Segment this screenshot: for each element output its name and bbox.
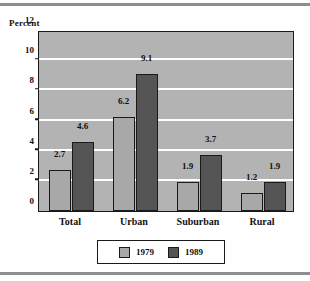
bar-value-label-rural-1979: 1.2 <box>246 173 257 182</box>
gridline-10 <box>39 58 293 60</box>
y-axis-tick-12: 12 <box>25 15 39 25</box>
gridline-8 <box>39 88 293 90</box>
y-axis-tick-10: 10 <box>25 45 39 55</box>
y-axis-tick-mark-10 <box>35 58 39 60</box>
legend-swatch-1989 <box>168 247 179 258</box>
bar-value-label-urban-1979: 6.2 <box>118 97 129 106</box>
legend-label-1989: 1989 <box>185 247 203 257</box>
bar-rural-1979 <box>241 193 263 211</box>
bar-value-label-total-1989: 4.6 <box>77 122 88 131</box>
bar-urban-1989 <box>136 74 158 211</box>
bar-rural-1989 <box>264 182 286 211</box>
bar-suburban-1979 <box>177 182 199 211</box>
plot-area: 0246810122.74.66.29.11.93.71.21.9 <box>38 31 294 212</box>
y-axis-tick-2: 2 <box>30 166 40 176</box>
x-axis-label-urban: Urban <box>120 216 148 227</box>
y-axis-tick-6: 6 <box>30 106 40 116</box>
bar-value-label-urban-1989: 9.1 <box>141 54 152 63</box>
bar-total-1979 <box>49 170 71 211</box>
y-axis-tick-mark-4 <box>35 148 39 150</box>
x-axis-label-rural: Rural <box>250 216 275 227</box>
bar-value-label-total-1979: 2.7 <box>54 150 65 159</box>
x-axis-label-total: Total <box>59 216 81 227</box>
legend-entry-1989: 1989 <box>168 247 203 258</box>
bar-total-1989 <box>72 142 94 211</box>
legend-swatch-1979 <box>119 247 130 258</box>
chart-legend: 1979 1989 <box>97 240 225 264</box>
y-axis-tick-0: 0 <box>30 196 40 206</box>
bar-value-label-rural-1989: 1.9 <box>269 162 280 171</box>
y-axis-tick-mark-6 <box>35 118 39 120</box>
y-axis-tick-8: 8 <box>30 75 40 85</box>
x-axis-label-suburban: Suburban <box>177 216 220 227</box>
bar-suburban-1989 <box>200 155 222 211</box>
bar-urban-1979 <box>113 117 135 211</box>
legend-entry-1979: 1979 <box>119 247 154 258</box>
page-rule-top <box>0 3 310 6</box>
bar-chart-figure: Percent 0246810122.74.66.29.11.93.71.21.… <box>0 8 310 270</box>
bar-value-label-suburban-1989: 3.7 <box>205 135 216 144</box>
legend-label-1979: 1979 <box>136 247 154 257</box>
bar-value-label-suburban-1979: 1.9 <box>182 162 193 171</box>
page-rule-bottom <box>0 272 310 275</box>
y-axis-tick-mark-2 <box>35 179 39 181</box>
y-axis-tick-4: 4 <box>30 136 40 146</box>
y-axis-tick-mark-8 <box>35 88 39 90</box>
